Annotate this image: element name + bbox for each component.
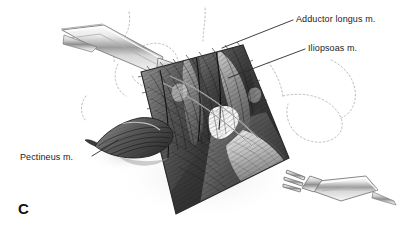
label-adductor-longus: Adductor longus m. (296, 14, 375, 24)
anatomy-illustration (0, 0, 401, 237)
label-iliopsoas: Iliopsoas m. (308, 43, 357, 53)
label-pectineus: Pectineus m. (20, 152, 73, 162)
figure-panel: Adductor longus m. Iliopsoas m. Pectineu… (0, 0, 401, 237)
panel-letter: C (18, 200, 29, 217)
